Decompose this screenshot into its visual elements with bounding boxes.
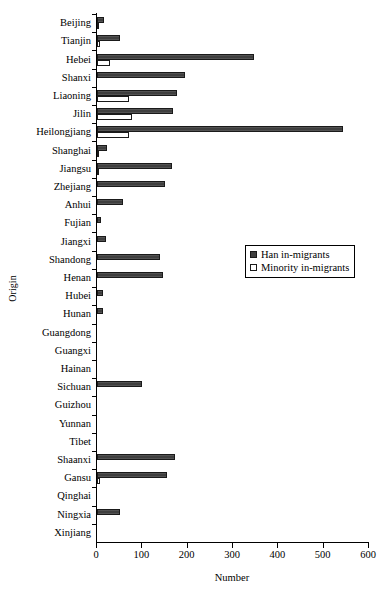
category-label-sichuan: Sichuan bbox=[57, 382, 91, 393]
y-axis-tick bbox=[92, 305, 96, 306]
chart-row: Yunnan bbox=[96, 415, 368, 433]
y-axis-tick bbox=[92, 196, 96, 197]
category-label-qinghai: Qinghai bbox=[57, 491, 91, 502]
category-label-henan: Henan bbox=[64, 273, 91, 284]
chart-row: Shanghai bbox=[96, 141, 368, 159]
chart-row: Jilin bbox=[96, 105, 368, 123]
category-label-fujian: Fujian bbox=[64, 218, 91, 229]
bar-jiangsu-minority bbox=[97, 169, 99, 175]
bar-gansu-han bbox=[97, 472, 167, 478]
x-axis-tick bbox=[141, 543, 142, 548]
chart-row: Shanxi bbox=[96, 69, 368, 87]
bar-shandong-han bbox=[97, 254, 160, 260]
y-axis-tick bbox=[92, 50, 96, 51]
legend-item-minority: Minority in-migrants bbox=[250, 261, 349, 274]
y-axis-title: Origin bbox=[7, 259, 18, 319]
bar-fujian-han bbox=[97, 217, 101, 223]
category-label-shanxi: Shanxi bbox=[62, 72, 91, 83]
chart-legend: Han in-migrants Minority in-migrants bbox=[245, 245, 355, 278]
category-label-shaanxi: Shaanxi bbox=[57, 455, 91, 466]
y-axis-tick bbox=[92, 32, 96, 33]
y-axis-tick bbox=[92, 506, 96, 507]
x-axis-tick bbox=[187, 543, 188, 548]
category-label-guangxi: Guangxi bbox=[55, 346, 91, 357]
category-label-tibet: Tibet bbox=[69, 437, 91, 448]
category-label-liaoning: Liaoning bbox=[53, 91, 91, 102]
y-axis-tick bbox=[92, 105, 96, 106]
bar-tianjin-han bbox=[97, 35, 120, 41]
category-label-tianjin: Tianjin bbox=[61, 36, 91, 47]
x-axis-tick bbox=[277, 543, 278, 548]
y-axis-tick bbox=[92, 469, 96, 470]
y-axis-tick bbox=[92, 324, 96, 325]
bar-henan-han bbox=[97, 272, 163, 278]
x-axis-tick-label: 0 bbox=[76, 549, 116, 560]
bar-shanxi-han bbox=[97, 72, 185, 78]
chart-row: Anhui bbox=[96, 196, 368, 214]
legend-item-han: Han in-migrants bbox=[250, 248, 349, 261]
y-axis-tick bbox=[92, 396, 96, 397]
chart-row: Shaanxi bbox=[96, 451, 368, 469]
chart-row: Tianjin bbox=[96, 32, 368, 50]
chart-row: Hunan bbox=[96, 305, 368, 323]
bar-sichuan-han bbox=[97, 381, 142, 387]
category-label-beijing: Beijing bbox=[60, 18, 91, 29]
chart-row: Guizhou bbox=[96, 396, 368, 414]
category-label-hebei: Hebei bbox=[66, 54, 91, 65]
x-axis-tick bbox=[368, 543, 369, 548]
category-label-hainan: Hainan bbox=[61, 364, 91, 375]
y-axis-tick bbox=[92, 415, 96, 416]
x-axis-tick-label: 600 bbox=[348, 549, 388, 560]
x-axis-tick bbox=[232, 543, 233, 548]
category-label-zhejiang: Zhejiang bbox=[54, 182, 91, 193]
category-label-ningxia: Ningxia bbox=[57, 509, 91, 520]
y-axis-tick bbox=[92, 451, 96, 452]
bar-hebei-han bbox=[97, 54, 254, 60]
x-axis-tick-label: 400 bbox=[257, 549, 297, 560]
bar-ningxia-han bbox=[97, 509, 120, 515]
bar-shanghai-minority bbox=[97, 151, 99, 157]
y-axis-tick bbox=[92, 160, 96, 161]
y-axis-tick bbox=[92, 87, 96, 88]
chart-row: Heilongjiang bbox=[96, 123, 368, 141]
category-label-hubei: Hubei bbox=[65, 291, 91, 302]
chart-row: Xinjiang bbox=[96, 524, 368, 542]
category-label-jiangsu: Jiangsu bbox=[60, 163, 92, 174]
bar-chart: Origin BeijingTianjinHebeiShanxiLiaoning… bbox=[0, 0, 388, 597]
bar-hubei-han bbox=[97, 290, 103, 296]
y-axis-tick bbox=[92, 269, 96, 270]
category-label-jiangxi: Jiangxi bbox=[61, 236, 91, 247]
category-label-yunnan: Yunnan bbox=[59, 418, 91, 429]
bar-jiangxi-han bbox=[97, 236, 106, 242]
chart-row: Beijing bbox=[96, 14, 368, 32]
x-axis-tick-label: 300 bbox=[212, 549, 252, 560]
bar-jiangsu-han bbox=[97, 163, 172, 169]
legend-swatch-minority-icon bbox=[250, 264, 257, 271]
category-label-guangdong: Guangdong bbox=[42, 327, 91, 338]
bar-heilongjiang-han bbox=[97, 126, 343, 132]
chart-row: Jiangsu bbox=[96, 160, 368, 178]
category-label-shandong: Shandong bbox=[49, 255, 91, 266]
y-axis-tick bbox=[92, 141, 96, 142]
bar-hebei-minority bbox=[97, 60, 110, 66]
category-label-heilongjiang: Heilongjiang bbox=[36, 127, 91, 138]
chart-row: Guangdong bbox=[96, 324, 368, 342]
y-axis-tick bbox=[92, 214, 96, 215]
bar-beijing-minority bbox=[97, 23, 99, 29]
bar-gansu-minority bbox=[97, 478, 100, 484]
category-label-jilin: Jilin bbox=[73, 109, 91, 120]
x-axis-tick-label: 100 bbox=[121, 549, 161, 560]
y-axis-tick bbox=[92, 123, 96, 124]
category-label-anhui: Anhui bbox=[65, 200, 91, 211]
chart-row: Hubei bbox=[96, 287, 368, 305]
bar-hunan-han bbox=[97, 308, 103, 314]
chart-row: Fujian bbox=[96, 214, 368, 232]
x-axis-tick bbox=[96, 543, 97, 548]
chart-row: Hebei bbox=[96, 50, 368, 68]
category-label-xinjiang: Xinjiang bbox=[54, 528, 91, 539]
y-axis-tick bbox=[92, 69, 96, 70]
y-axis-tick bbox=[92, 524, 96, 525]
chart-row: Liaoning bbox=[96, 87, 368, 105]
category-label-guizhou: Guizhou bbox=[55, 400, 91, 411]
chart-row: Hainan bbox=[96, 360, 368, 378]
